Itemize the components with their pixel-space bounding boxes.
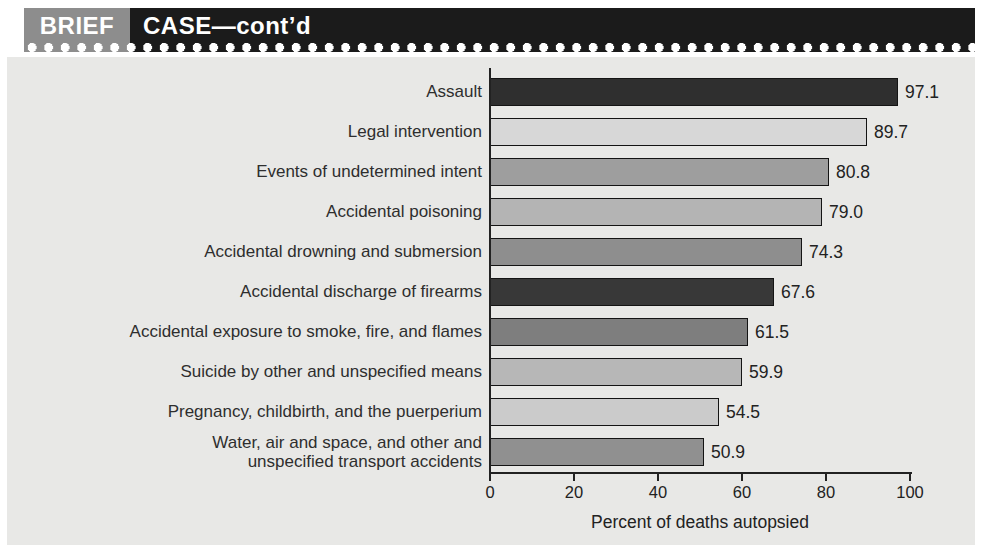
bar <box>490 278 774 306</box>
bar-chart: Assault97.1Legal intervention89.7Events … <box>0 72 983 552</box>
x-axis-tick-label: 100 <box>885 483 935 502</box>
bar-area: 50.9 <box>490 438 745 466</box>
x-axis-tick <box>489 474 491 481</box>
bar-row: Accidental poisoning79.0 <box>0 192 983 232</box>
category-label: Legal intervention <box>0 122 490 141</box>
value-label: 97.1 <box>905 82 939 103</box>
brief-case-header: BRIEF CASE—cont’d <box>24 8 975 52</box>
bar-row: Accidental discharge of firearms67.6 <box>0 272 983 312</box>
bar-area: 67.6 <box>490 278 815 306</box>
bar <box>490 118 867 146</box>
bar <box>490 438 704 466</box>
x-axis-tick <box>741 474 743 481</box>
value-label: 59.9 <box>749 362 783 383</box>
x-axis-tick-label: 80 <box>801 483 851 502</box>
bar <box>490 358 742 386</box>
bar-area: 74.3 <box>490 238 843 266</box>
value-label: 61.5 <box>755 322 789 343</box>
bar-area: 61.5 <box>490 318 789 346</box>
x-axis-tick <box>657 474 659 481</box>
category-label: Accidental exposure to smoke, fire, and … <box>0 322 490 341</box>
x-axis-tick-label: 60 <box>717 483 767 502</box>
bar <box>490 78 898 106</box>
bar-area: 80.8 <box>490 158 870 186</box>
value-label: 79.0 <box>829 202 863 223</box>
value-label: 50.9 <box>711 442 745 463</box>
bar-area: 79.0 <box>490 198 863 226</box>
bar-area: 97.1 <box>490 78 939 106</box>
x-axis-line <box>489 472 912 474</box>
category-label: Events of undetermined intent <box>0 162 490 181</box>
x-axis-tick <box>909 474 911 481</box>
category-label: Accidental drowning and submersion <box>0 242 490 261</box>
bar <box>490 158 829 186</box>
category-label: Pregnancy, childbirth, and the puerperiu… <box>0 402 490 421</box>
category-label: Accidental poisoning <box>0 202 490 221</box>
figure-page: BRIEF CASE—cont’d Assault97.1Legal inter… <box>0 0 983 559</box>
value-label: 54.5 <box>726 402 760 423</box>
x-axis-tick-label: 0 <box>465 483 515 502</box>
bar <box>490 398 719 426</box>
x-axis-tick-label: 20 <box>549 483 599 502</box>
category-label: Assault <box>0 82 490 101</box>
x-axis-tick <box>573 474 575 481</box>
bar-row: Pregnancy, childbirth, and the puerperiu… <box>0 392 983 432</box>
bar-area: 54.5 <box>490 398 760 426</box>
bar-area: 59.9 <box>490 358 783 386</box>
bar-area: 89.7 <box>490 118 908 146</box>
value-label: 80.8 <box>836 162 870 183</box>
value-label: 89.7 <box>874 122 908 143</box>
category-label: Accidental discharge of firearms <box>0 282 490 301</box>
bar-row: Assault97.1 <box>0 72 983 112</box>
bar-rows: Assault97.1Legal intervention89.7Events … <box>0 72 983 472</box>
category-label: Water, air and space, and other and unsp… <box>0 433 490 471</box>
bar <box>490 238 802 266</box>
x-axis-tick-label: 40 <box>633 483 683 502</box>
x-axis-title: Percent of deaths autopsied <box>490 512 910 533</box>
bar-row: Suicide by other and unspecified means59… <box>0 352 983 392</box>
y-axis-line <box>489 68 491 474</box>
perforation-dots-decoration <box>24 41 975 52</box>
category-label: Suicide by other and unspecified means <box>0 362 490 381</box>
bar-row: Events of undetermined intent80.8 <box>0 152 983 192</box>
bar <box>490 318 748 346</box>
value-label: 67.6 <box>781 282 815 303</box>
bar-row: Legal intervention89.7 <box>0 112 983 152</box>
bar-row: Accidental exposure to smoke, fire, and … <box>0 312 983 352</box>
bar-row: Accidental drowning and submersion74.3 <box>0 232 983 272</box>
value-label: 74.3 <box>809 242 843 263</box>
x-axis-tick <box>825 474 827 481</box>
bar-row: Water, air and space, and other and unsp… <box>0 432 983 472</box>
bar <box>490 198 822 226</box>
